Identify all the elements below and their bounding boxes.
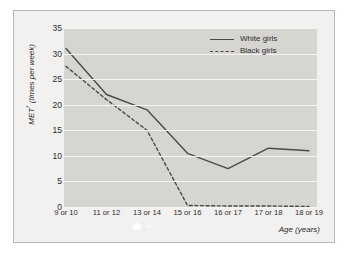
y-axis-tick: 30	[16, 49, 62, 58]
x-axis-tick-labels: 9 or 1011 or 1213 or 1415 or 1616 or 171…	[64, 209, 317, 221]
solid-line-icon	[210, 35, 234, 43]
scan-artifact	[147, 225, 151, 228]
scan-artifact	[132, 223, 141, 230]
legend-label: White girls	[240, 34, 277, 43]
gridline	[64, 130, 317, 131]
x-axis-tick: 11 or 12	[93, 209, 120, 217]
y-axis-tick: 35	[16, 24, 62, 33]
x-axis-tick: 18 or 19	[295, 209, 323, 217]
x-axis-tick: 9 or 10	[54, 209, 78, 217]
series-line-black-girls	[66, 66, 309, 206]
chart-figure-panel: MET* (times per week) 05101520253035 9 o…	[13, 10, 335, 243]
y-axis-tick-labels: 05101520253035	[14, 28, 62, 207]
dashed-line-icon	[210, 47, 234, 55]
gridline	[64, 79, 317, 80]
y-axis-tick: 5	[16, 177, 62, 186]
gridline	[64, 105, 317, 106]
gridline	[64, 28, 317, 29]
series-line-white-girls	[66, 48, 309, 168]
legend-label: Black girls	[240, 46, 276, 55]
legend-swatch-line	[210, 39, 234, 40]
legend-swatch-line	[210, 51, 234, 52]
scan-artifact	[122, 226, 125, 228]
figure-page: MET* (times per week) 05101520253035 9 o…	[0, 0, 348, 255]
y-axis-tick: 10	[16, 152, 62, 161]
gridline	[64, 156, 317, 157]
legend-item: White girls	[210, 33, 310, 44]
x-axis-tick: 13 or 14	[133, 209, 161, 217]
x-axis-tick: 16 or 17	[214, 209, 242, 217]
y-axis-tick: 15	[16, 126, 62, 135]
x-axis-tick: 17 or 18	[255, 209, 283, 217]
legend-item: Black girls	[210, 45, 310, 56]
chart-legend: White girlsBlack girls	[210, 33, 310, 57]
x-axis-tick: 15 or 16	[174, 209, 202, 217]
y-axis-tick: 25	[16, 75, 62, 84]
y-axis-tick: 20	[16, 100, 62, 109]
x-axis-title: Age (years)	[279, 225, 320, 234]
gridline	[64, 181, 317, 182]
